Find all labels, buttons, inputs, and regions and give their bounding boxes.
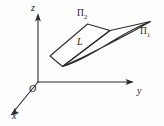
y-axis [38,79,134,85]
axes-group [11,13,135,116]
line-label-L: L [77,37,83,47]
axis-label-y: y [137,86,141,96]
origin-label: O [29,84,36,94]
plane-label-pi2: Π2 [77,9,87,20]
geometry-figure: z y x O Π2 Π1 L [0,0,164,126]
z-axis [35,13,41,82]
axis-label-x: x [12,111,16,121]
plane-label-pi1: Π1 [140,27,150,38]
plane-label-pi1-subscript: 1 [147,31,150,38]
plane-label-pi1-glyph: Π [140,26,147,36]
plane-label-pi2-glyph: Π [77,8,84,18]
axis-label-z: z [31,3,35,13]
plane-label-pi2-subscript: 2 [84,13,87,20]
